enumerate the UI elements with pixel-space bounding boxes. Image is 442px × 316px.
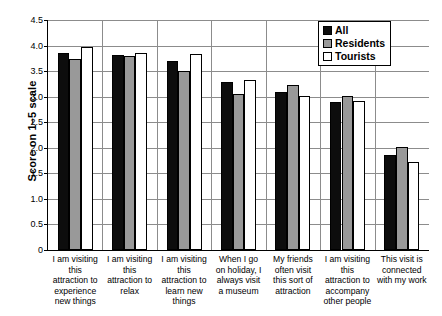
legend-item-tourists: Tourists: [323, 51, 385, 62]
bar-group: [102, 20, 156, 250]
legend-item-all: All: [323, 25, 385, 36]
y-tick-label: 1.5: [30, 168, 43, 178]
bar-tourists: [81, 47, 93, 250]
legend-label-all: All: [335, 25, 348, 36]
bar-residents: [396, 147, 408, 250]
bar-residents: [287, 85, 299, 250]
y-tick-label: 0.5: [30, 219, 43, 229]
x-axis-label: This visit is connected with my work: [377, 254, 427, 286]
bar-group: [48, 20, 102, 250]
legend-label-residents: Residents: [335, 38, 385, 49]
bar-group: [211, 20, 265, 250]
x-axis-label: My friends often visit this sort of attr…: [268, 254, 318, 296]
x-axis-labels: I am visiting this attraction to experie…: [48, 254, 429, 312]
y-tick-label: 4.5: [30, 15, 43, 25]
y-tick-label: 3.0: [30, 92, 43, 102]
bar-all: [275, 92, 287, 250]
bar-group: [157, 20, 211, 250]
bar-residents: [178, 71, 190, 250]
y-tick-label: 2.0: [30, 143, 43, 153]
bar-chart: Score on 1–5 scale 00.51.01.52.02.53.03.…: [0, 0, 442, 316]
bar-residents: [124, 56, 136, 250]
bar-residents: [233, 94, 245, 250]
y-tick-mark: [44, 250, 48, 251]
bar-tourists: [190, 54, 202, 250]
legend-swatch-tourists: [323, 52, 332, 61]
legend-swatch-all: [323, 26, 332, 35]
y-tick-label: 2.5: [30, 117, 43, 127]
x-axis-label: I am visiting this attraction to experie…: [50, 254, 100, 307]
chart-legend: All Residents Tourists: [318, 21, 391, 66]
x-axis-label: When I go on holiday, I always visit a m…: [213, 254, 263, 296]
legend-swatch-residents: [323, 39, 332, 48]
legend-label-tourists: Tourists: [335, 51, 376, 62]
x-axis-label: I am visiting this attraction to learn n…: [159, 254, 209, 307]
legend-item-residents: Residents: [323, 38, 385, 49]
bar-all: [167, 61, 179, 250]
y-tick-label: 3.5: [30, 66, 43, 76]
bar-tourists: [299, 96, 311, 250]
bar-residents: [69, 59, 81, 250]
bar-tourists: [135, 53, 147, 250]
bar-group: [266, 20, 320, 250]
bar-all: [58, 53, 70, 250]
bar-tourists: [408, 162, 420, 250]
bar-residents: [342, 96, 354, 250]
y-tick-label: 0: [38, 245, 43, 255]
bar-all: [330, 102, 342, 250]
y-tick-label: 1.0: [30, 194, 43, 204]
bar-tourists: [244, 80, 256, 250]
bar-all: [384, 155, 396, 250]
bar-all: [221, 82, 233, 250]
y-tick-label: 4.0: [30, 41, 43, 51]
bar-all: [112, 55, 124, 250]
x-axis-label: I am visiting this attraction to relax: [104, 254, 154, 296]
bar-tourists: [353, 101, 365, 250]
x-axis-label: I am visiting this attraction to accompa…: [322, 254, 372, 307]
